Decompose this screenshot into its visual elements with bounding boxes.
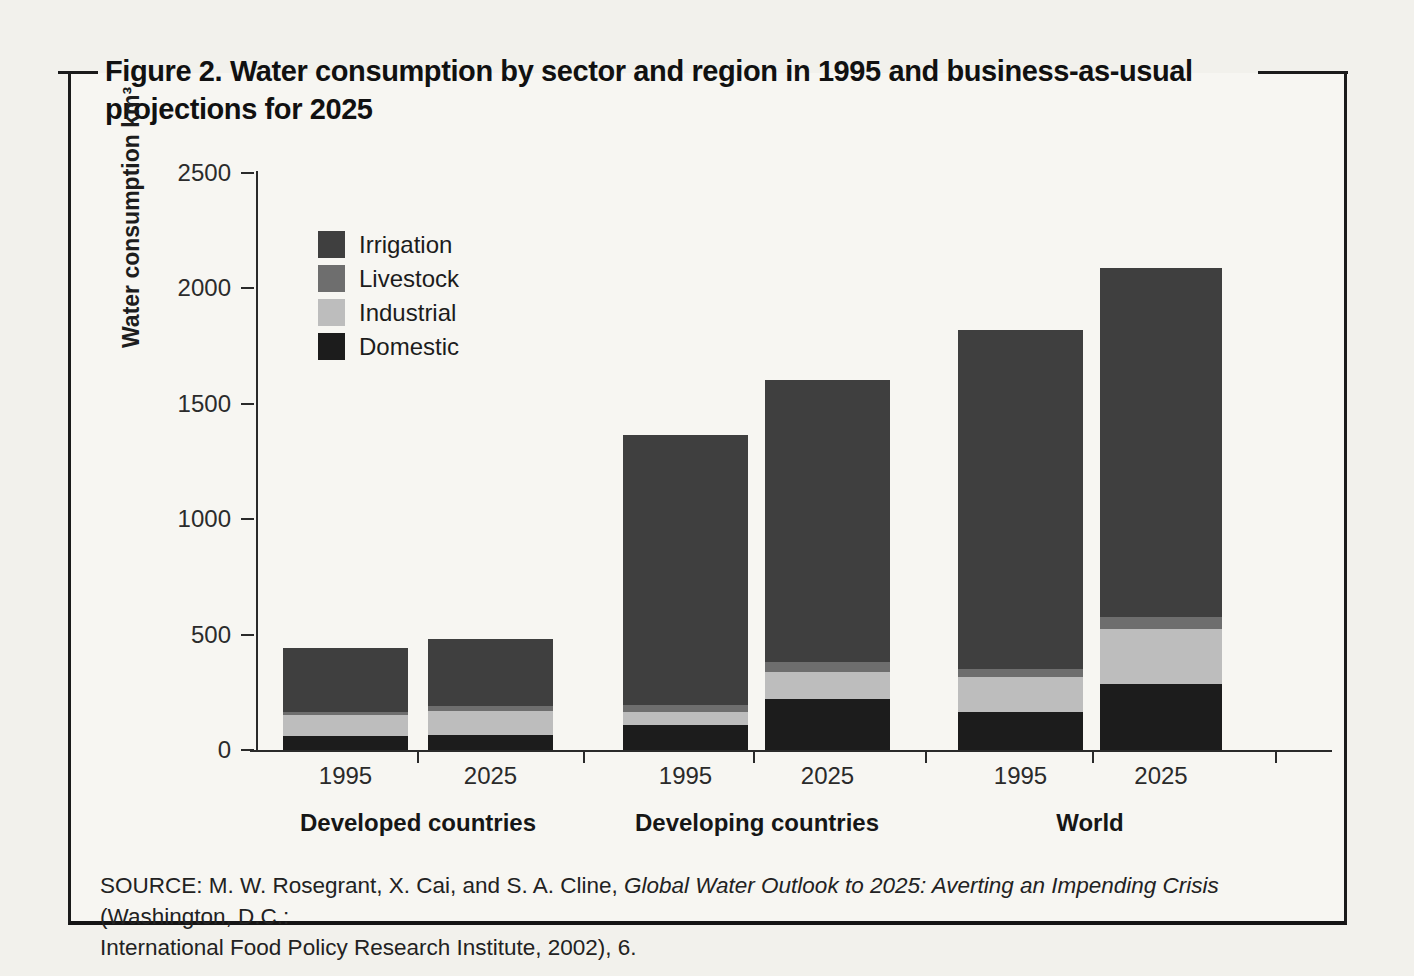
y-tick-label-1500: 1500 [136,390,231,418]
x-tick-3 [925,750,927,763]
legend-swatch-domestic [318,333,345,360]
y-tick-label-500: 500 [136,621,231,649]
bar-segment-domestic [428,735,553,750]
legend-label-industrial: Industrial [359,299,456,327]
bar-segment-industrial [1100,629,1222,684]
source-prefix: SOURCE: M. W. Rosegrant, X. Cai, and S. … [100,873,624,898]
legend-swatch-livestock [318,265,345,292]
y-axis-title: Water consumption km³ [118,318,145,348]
bar-segment-domestic [1100,684,1222,750]
bar-segment-livestock [623,705,748,712]
bar-segment-irrigation [958,330,1083,669]
year-label-world-2025: 2025 [1101,762,1221,790]
y-axis-line [256,171,258,752]
source-line2: International Food Policy Research Insti… [100,935,637,960]
bar-segment-livestock [958,669,1083,677]
bar-segment-domestic [623,725,748,750]
bar-segment-livestock [1100,617,1222,629]
legend-item-livestock: Livestock [318,265,459,292]
bar-segment-livestock [765,662,890,671]
bar-developed-countries-2025 [428,639,553,750]
year-label-developing-countries-2025: 2025 [768,762,888,790]
x-tick-1 [583,750,585,763]
y-tick-0 [241,749,254,751]
frame-top-rule-right [1258,71,1348,74]
x-axis-line [250,750,1332,752]
figure-title-line1: Figure 2. Water consumption by sector an… [105,55,1193,87]
figure-title: Figure 2. Water consumption by sector an… [105,52,1270,128]
y-tick-label-0: 0 [136,736,231,764]
group-label-world: World [940,809,1240,837]
figure-title-line2: projections for 2025 [105,93,373,125]
legend-swatch-irrigation [318,231,345,258]
chart-legend: IrrigationLivestockIndustrialDomestic [318,231,459,367]
scanned-figure-page: Figure 2. Water consumption by sector an… [0,0,1414,976]
bar-segment-irrigation [765,380,890,663]
bar-segment-domestic [765,699,890,750]
y-tick-label-2500: 2500 [136,159,231,187]
year-label-developing-countries-1995: 1995 [626,762,746,790]
bar-segment-irrigation [1100,268,1222,618]
bar-segment-industrial [428,711,553,735]
legend-label-domestic: Domestic [359,333,459,361]
bar-world-1995 [958,330,1083,750]
bar-segment-irrigation [623,435,748,705]
y-tick-1500 [241,403,254,405]
legend-item-industrial: Industrial [318,299,459,326]
x-tick-0 [417,750,419,763]
bar-segment-industrial [283,715,408,736]
bar-segment-industrial [623,712,748,725]
year-label-developed-countries-2025: 2025 [431,762,551,790]
bar-segment-domestic [958,712,1083,750]
y-tick-label-2000: 2000 [136,274,231,302]
bar-developing-countries-1995 [623,435,748,750]
legend-item-irrigation: Irrigation [318,231,459,258]
group-label-developing-countries: Developing countries [607,809,907,837]
y-tick-2000 [241,287,254,289]
bar-segment-domestic [283,736,408,750]
group-label-developed-countries: Developed countries [268,809,568,837]
legend-label-livestock: Livestock [359,265,459,293]
year-label-developed-countries-1995: 1995 [286,762,406,790]
source-suffix: (Washington, D.C.: [100,904,289,929]
y-tick-2500 [241,172,254,174]
bar-segment-irrigation [283,648,408,711]
bar-developed-countries-1995 [283,648,408,750]
legend-label-irrigation: Irrigation [359,231,452,259]
x-tick-4 [1092,750,1094,763]
bar-developing-countries-2025 [765,380,890,750]
y-tick-label-1000: 1000 [136,505,231,533]
bar-world-2025 [1100,268,1222,750]
legend-swatch-industrial [318,299,345,326]
bar-segment-irrigation [428,639,553,706]
bar-segment-industrial [765,672,890,700]
legend-item-domestic: Domestic [318,333,459,360]
x-tick-5 [1275,750,1277,763]
year-label-world-1995: 1995 [961,762,1081,790]
source-book-title: Global Water Outlook to 2025: Averting a… [624,873,1219,898]
bar-segment-industrial [958,677,1083,712]
x-tick-2 [753,750,755,763]
frame-top-rule-left [58,71,98,74]
chart-plot-area: Water consumption km³ 050010001500200025… [258,173,1333,750]
y-tick-500 [241,634,254,636]
y-tick-1000 [241,518,254,520]
source-citation: SOURCE: M. W. Rosegrant, X. Cai, and S. … [100,870,1315,963]
